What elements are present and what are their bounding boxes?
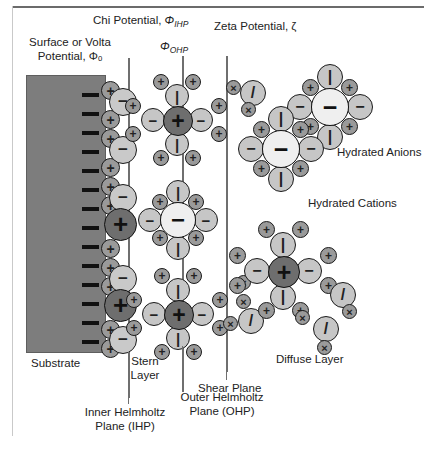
phi-ohp-label: ΦOHP <box>160 40 188 55</box>
water-proton: + <box>320 247 337 264</box>
water-proton: + <box>125 98 141 114</box>
hydrated-cation-cluster: | − − | + + + + + + + + + <box>135 78 231 170</box>
water-proton: + <box>154 268 170 284</box>
substrate-label: Substrate <box>31 357 80 371</box>
water-body: / <box>313 316 339 342</box>
chi-potential-label: Chi Potential, ΦIHP <box>93 14 188 29</box>
surface-potential-label: Surface or Volta Potential, Φₒ <box>12 36 128 63</box>
water-proton: + <box>185 74 201 90</box>
water-proton: + <box>292 160 309 177</box>
water-proton: + <box>292 221 309 238</box>
water-molecule: − <box>141 108 165 132</box>
water-lone-pair: × <box>295 310 310 325</box>
free-water-molecule: / × × <box>295 308 351 356</box>
water-proton: + <box>341 79 358 96</box>
left-rule <box>12 6 13 436</box>
water-proton: + <box>185 150 201 166</box>
phi-symbol-ohp: Φ <box>160 40 170 52</box>
outer-helmholtz-plane-label: Outer Helmholtz Plane (OHP) <box>152 391 292 418</box>
water-molecule: | <box>268 106 294 132</box>
ohp-leader-line <box>182 346 183 388</box>
water-proton: + <box>152 230 168 246</box>
water-proton: + <box>253 121 270 138</box>
water-proton: + <box>188 230 204 246</box>
water-proton: + <box>341 118 358 135</box>
water-proton: + <box>125 126 141 142</box>
figure-canvas: Surface or Volta Potential, Φₒ Chi Poten… <box>0 0 435 456</box>
water-proton: + <box>258 302 275 319</box>
water-proton: + <box>188 194 204 210</box>
water-proton: + <box>253 160 270 177</box>
water-proton: + <box>302 79 319 96</box>
stern-large-cation: + <box>104 208 137 241</box>
hydrated-anion-cluster: | − − | − + + + + <box>136 178 232 270</box>
water-proton: + <box>153 150 169 166</box>
hydrated-cation-cluster: | − − | + + + + + + + + + <box>136 272 232 364</box>
water-molecule: | <box>165 84 189 108</box>
water-proton: + <box>258 221 275 238</box>
water-proton: + <box>211 126 227 142</box>
phi-symbol: Φ <box>165 14 175 26</box>
water-proton: + <box>126 320 142 336</box>
water-molecule: | <box>166 278 190 302</box>
water-lone-pair: × <box>317 340 332 355</box>
water-proton: + <box>229 277 246 294</box>
water-proton: + <box>186 344 202 360</box>
water-proton: + <box>154 344 170 360</box>
water-molecule: − <box>194 208 218 232</box>
water-molecule: − <box>138 208 162 232</box>
water-molecule: | <box>317 64 343 90</box>
cation-core: + <box>268 256 300 288</box>
ihp-leader-line <box>128 352 129 404</box>
water-molecule: − <box>298 136 324 162</box>
water-proton: + <box>229 247 246 264</box>
water-molecule: | <box>166 236 190 260</box>
water-proton: + <box>152 194 168 210</box>
water-proton: + <box>153 74 169 90</box>
water-molecule: | <box>166 180 190 204</box>
water-molecule: − <box>142 302 166 326</box>
zeta-potential-label: Zeta Potential, ζ <box>214 20 296 34</box>
water-proton: + <box>212 292 228 308</box>
water-proton: + <box>292 121 309 138</box>
hydrated-cations-label: Hydrated Cations <box>308 197 397 211</box>
water-lone-pair: × <box>226 80 241 95</box>
shear-plane-leader-line <box>226 334 227 380</box>
water-proton: + <box>211 98 227 114</box>
cation-core: + <box>164 300 194 330</box>
surface-negative-charges <box>26 75 104 351</box>
water-molecule: − <box>347 94 373 120</box>
hydrated-anion-cluster: | − − | − + + + + <box>238 104 334 196</box>
water-molecule: | <box>268 166 294 192</box>
water-molecule: | <box>270 232 296 258</box>
water-molecule: − <box>244 258 270 284</box>
top-rule <box>12 6 424 8</box>
small-cation: + <box>101 239 120 258</box>
water-molecule: − <box>238 136 264 162</box>
water-proton: + <box>126 292 142 308</box>
cation-core: + <box>163 106 193 136</box>
water-proton: + <box>186 268 202 284</box>
